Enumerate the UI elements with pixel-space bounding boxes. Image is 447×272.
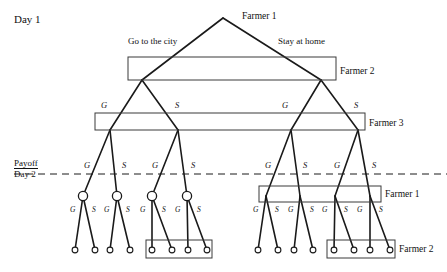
information-set-farmer-2-day2-left [146, 240, 212, 258]
terminal-node-terminal-9 [255, 247, 261, 253]
terminal-node-terminal-12 [310, 247, 316, 253]
information-set-label-farmer-1-day2-right: Farmer 1 [385, 190, 420, 200]
root-action-label-left: Go to the city [128, 37, 177, 46]
decision-node-day2-node-3 [147, 191, 156, 200]
edge-f2l-G [110, 80, 142, 130]
terminal-node-terminal-15 [367, 247, 373, 253]
information-set-farmer-1-day2-right [259, 186, 381, 202]
action-label-day2-bottom-7: S [197, 206, 201, 214]
edge-d2-3-G [187, 196, 188, 250]
information-set-farmer-2-day1 [128, 57, 336, 80]
information-set-farmer-3-day1 [95, 113, 365, 130]
action-label-day2-bottom-6: G [175, 206, 180, 214]
edge-f2r-S [321, 80, 358, 130]
edge-f3-1-S [178, 130, 187, 196]
action-label-day2-top-5: S [303, 161, 307, 170]
edge-f3-0-S [110, 130, 117, 196]
edge-f2l-S [142, 80, 178, 130]
action-label-level3-0: G [101, 101, 107, 110]
action-label-level3-2: G [282, 101, 288, 110]
action-label-day2-bottom-0: G [70, 206, 75, 214]
edge-d2-6-G [334, 196, 335, 250]
action-label-day2-bottom-4: G [140, 206, 145, 214]
action-label-day2-bottom-15: S [379, 206, 383, 214]
edge-d2-5-G [294, 196, 300, 250]
terminal-node-terminal-7 [185, 247, 191, 253]
information-set-label-farmer-2-day1: Farmer 2 [340, 67, 375, 77]
terminal-node-terminal-4 [127, 247, 133, 253]
decision-node-day2-node-1 [78, 191, 87, 200]
information-set-label-farmer-2-day2-right: Farmer 2 [399, 245, 434, 255]
terminal-node-terminal-6 [169, 247, 175, 253]
terminal-node-terminal-5 [149, 247, 155, 253]
tree-graphics [0, 0, 447, 272]
edge-d2-0-G [75, 196, 83, 250]
edge-root-stay-at-home [223, 18, 321, 80]
terminal-node-terminal-3 [107, 247, 113, 253]
action-label-day2-bottom-2: G [104, 206, 109, 214]
action-label-day2-bottom-1: S [92, 206, 96, 214]
day2-label: Day 2 [14, 169, 38, 179]
terminal-node-terminal-11 [291, 247, 297, 253]
action-label-day2-top-2: G [152, 161, 158, 170]
terminal-node-terminal-2 [92, 247, 98, 253]
decision-node-day2-node-2 [112, 191, 121, 200]
action-label-day2-top-7: S [372, 161, 376, 170]
action-label-day2-top-6: G [334, 161, 340, 170]
action-label-day2-bottom-12: G [322, 206, 327, 214]
action-label-day2-top-1: S [122, 161, 126, 170]
game-tree-figure: Day 1 Payoff Day 2 Farmer 1 Farmer 2Farm… [0, 0, 447, 272]
terminal-node-terminal-13 [331, 247, 337, 253]
root-action-label-right: Stay at home [278, 37, 325, 46]
action-label-level3-3: S [354, 101, 358, 110]
edge-root-go-to-city [142, 18, 223, 80]
edge-d2-1-G [110, 196, 117, 250]
action-label-day2-bottom-11: S [310, 206, 314, 214]
payoff-day2-label-group: Payoff Day 2 [14, 158, 38, 180]
terminal-node-terminal-1 [72, 247, 78, 253]
edge-d2-4-G [258, 196, 266, 250]
terminal-node-terminal-10 [275, 247, 281, 253]
edge-f2r-G [291, 80, 321, 130]
day1-label: Day 1 [14, 14, 41, 25]
action-label-day2-bottom-8: G [253, 206, 258, 214]
action-label-day2-bottom-3: S [126, 206, 130, 214]
terminal-node-terminal-14 [351, 247, 357, 253]
terminal-node-terminal-16 [387, 247, 393, 253]
action-label-day2-bottom-13: S [344, 206, 348, 214]
action-label-day2-top-4: G [265, 161, 271, 170]
action-label-level3-1: S [175, 101, 179, 110]
information-set-label-farmer-3-day1: Farmer 3 [369, 119, 404, 129]
action-label-day2-top-0: G [84, 161, 90, 170]
action-label-day2-bottom-9: S [275, 206, 279, 214]
terminal-node-terminal-8 [204, 247, 210, 253]
action-label-day2-bottom-10: G [288, 206, 293, 214]
action-label-day2-top-3: S [191, 161, 195, 170]
payoff-label: Payoff [14, 158, 38, 169]
action-label-day2-bottom-14: G [357, 206, 362, 214]
root-player-label: Farmer 1 [242, 12, 277, 22]
decision-node-day2-node-4 [182, 191, 191, 200]
action-label-day2-bottom-5: S [162, 206, 166, 214]
